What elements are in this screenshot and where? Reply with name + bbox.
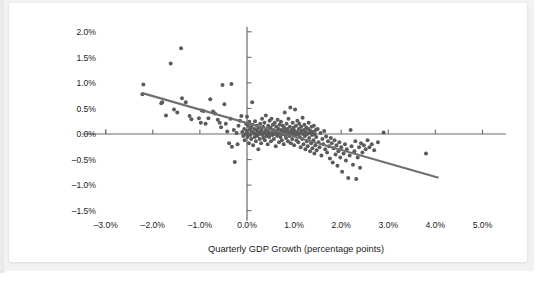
scatter-point [254, 139, 258, 143]
scatter-point [179, 46, 183, 50]
scatter-point [184, 100, 188, 104]
scatter-point [222, 102, 226, 106]
scatter-point [160, 100, 164, 104]
scatter-point [262, 121, 266, 125]
scatter-point [141, 82, 145, 86]
x-axis-title: Quarterly GDP Growth (percentage points) [208, 244, 384, 254]
scatter-point [221, 83, 225, 87]
scatter-point [318, 145, 322, 149]
y-axis-tick-label: 0.0% [76, 129, 96, 139]
y-axis-tick-label: –0.5% [72, 155, 97, 165]
scatter-point [301, 116, 305, 120]
scatter-point [199, 121, 203, 125]
scatter-point [272, 137, 276, 141]
x-axis-tick-label: 4.0% [426, 220, 446, 230]
scatter-point [357, 145, 361, 149]
scatter-point [340, 170, 344, 174]
scatter-point [376, 140, 380, 144]
scatter-point [269, 117, 273, 121]
scatter-point [329, 136, 333, 140]
scatter-point [259, 141, 263, 145]
scatter-point [260, 117, 264, 121]
y-axis-tick-label: –1.0% [72, 180, 97, 190]
scatter-point [338, 156, 342, 160]
scatter-plot-canvas: –3.0%–2.0%–1.0%0.0%1.0%2.0%3.0%4.0%5.0% … [0, 0, 542, 295]
scatter-point [318, 131, 322, 135]
scatter-point [382, 130, 386, 134]
scatter-point [264, 114, 268, 118]
scatter-point [424, 151, 428, 155]
scatter-point [274, 144, 278, 148]
scatter-point [296, 140, 300, 144]
scatter-point [204, 122, 208, 126]
scatter-point [258, 122, 262, 126]
scatter-point [328, 157, 332, 161]
scatter-point [251, 143, 255, 147]
scatter-point [245, 115, 249, 119]
scatter-point [250, 100, 254, 104]
scatter-point [172, 107, 176, 111]
scatter-point [249, 137, 253, 141]
scatter-point [307, 121, 311, 125]
scatter-point [366, 138, 370, 142]
scatter-point [293, 107, 297, 111]
scatter-point [346, 176, 350, 180]
x-axis-tick-label: –1.0% [188, 220, 213, 230]
scatter-point [219, 125, 223, 129]
scatter-point [218, 121, 222, 125]
scatter-point [256, 147, 260, 151]
scatter-point [343, 142, 347, 146]
scatter-point [331, 161, 335, 165]
scatter-point [353, 139, 357, 143]
chart-figure: –3.0%–2.0%–1.0%0.0%1.0%2.0%3.0%4.0%5.0% … [0, 0, 542, 295]
scatter-point [356, 156, 360, 160]
x-axis-tick-label: 0.0% [237, 220, 257, 230]
y-axis-tick-label: –1.5% [72, 206, 97, 216]
scatter-point [358, 166, 362, 170]
x-axis-tick-label: –3.0% [94, 220, 119, 230]
scatter-point [197, 116, 201, 120]
scatter-point [370, 142, 374, 146]
scatter-point [333, 138, 337, 142]
scatter-point [306, 144, 310, 148]
scatter-point [237, 124, 241, 128]
scatter-point [372, 148, 376, 152]
scatter-point [348, 153, 352, 157]
scatter-point [325, 150, 329, 154]
scatter-point [189, 117, 193, 121]
scatter-point [208, 97, 212, 101]
scatter-point [292, 143, 296, 147]
scatter-point [360, 150, 364, 154]
scatter-point [354, 177, 358, 181]
scatter-point [206, 116, 210, 120]
scatter-point [180, 96, 184, 100]
x-axis-tick-labels: –3.0%–2.0%–1.0%0.0%1.0%2.0%3.0%4.0%5.0% [94, 220, 493, 230]
scatter-plot: –3.0%–2.0%–1.0%0.0%1.0%2.0%3.0%4.0%5.0% … [0, 0, 542, 295]
scatter-point [364, 147, 368, 151]
scatter-point [266, 142, 270, 146]
scatter-point [229, 82, 233, 86]
scatter-point [316, 127, 320, 131]
scatter-point [337, 140, 341, 144]
scatter-point [224, 122, 228, 126]
scatter-point [330, 141, 334, 145]
x-axis-tick-label: 5.0% [473, 220, 493, 230]
scatter-point [227, 141, 231, 145]
scatter-points [140, 46, 428, 181]
scatter-point [289, 141, 293, 145]
scatter-point [232, 128, 236, 132]
scatter-point [344, 159, 348, 163]
scatter-point [351, 163, 355, 167]
y-axis-tick-label: 2.0% [76, 27, 96, 37]
scatter-point [324, 135, 328, 139]
scatter-point [315, 148, 319, 152]
y-axis-tick-label: 1.5% [76, 53, 96, 63]
scatter-point [164, 114, 168, 118]
scatter-point [247, 141, 251, 145]
scatter-point [258, 137, 262, 141]
scatter-point [253, 119, 257, 123]
scatter-point [350, 144, 354, 148]
x-axis-tick-label: 2.0% [331, 220, 351, 230]
scatter-point [225, 129, 229, 133]
scatter-point [312, 124, 316, 128]
